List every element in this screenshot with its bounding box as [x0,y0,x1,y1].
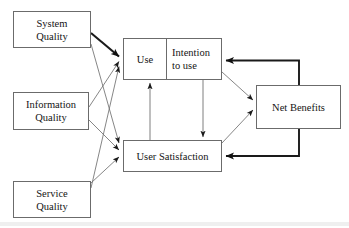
node-net-benefits-label: Net Benefits [270,101,327,114]
edge-user-satisfaction-to-net-benefits [222,110,253,143]
edge-information-quality-to-user-satisfaction [89,120,119,150]
node-service-quality-label: Service Quality [34,187,70,213]
edge-system-quality-to-use [91,33,119,57]
node-use: Use [124,39,166,79]
node-use-intention-to-use: Use Intention to use [123,38,222,80]
node-service-quality: Service Quality [13,181,91,218]
node-intention-to-use-label: Intention to use [170,46,212,72]
node-system-quality: System Quality [13,11,91,48]
node-information-quality-label: Information Quality [24,98,78,124]
node-system-quality-label: System Quality [34,17,70,43]
edge-group-to-net-benefits [222,72,253,143]
edge-use-to-net-benefits [222,72,253,100]
node-intention-to-use: Intention to use [166,39,223,79]
edge-group-quality-to-use-and-satisfaction [89,33,119,188]
node-user-satisfaction: User Satisfaction [123,140,222,172]
node-information-quality: Information Quality [13,92,89,130]
edge-net-benefits-to-user-satisfaction [226,129,299,156]
edge-group-center-vertical [150,80,203,140]
node-user-satisfaction-label: User Satisfaction [134,150,210,163]
bottom-divider-band [0,222,349,226]
diagram-canvas: System Quality Information Quality Servi… [0,0,349,228]
edge-net-benefits-to-intention-to-use [226,61,299,86]
node-use-label: Use [135,53,155,66]
node-net-benefits: Net Benefits [256,85,341,129]
